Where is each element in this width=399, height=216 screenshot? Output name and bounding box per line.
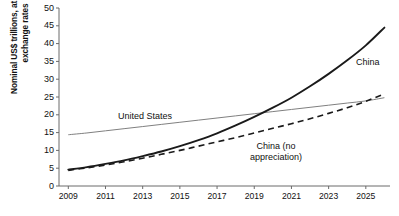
china-no-appreciation-label: China (no appreciation) bbox=[234, 141, 318, 163]
axes bbox=[56, 8, 390, 189]
data-series-group bbox=[68, 28, 384, 171]
chart-figure: Nominal US$ trillions, at market exchang… bbox=[0, 0, 399, 216]
plot-canvas bbox=[0, 0, 399, 216]
china-label: China bbox=[356, 57, 380, 68]
series-line-china bbox=[68, 28, 384, 170]
china-no-appreciation-label-line2: appreciation) bbox=[250, 152, 302, 162]
united-states-label: United States bbox=[118, 111, 172, 122]
china-no-appreciation-label-line1: China (no bbox=[256, 141, 295, 151]
series-line-china-no-appreciation bbox=[68, 94, 384, 171]
